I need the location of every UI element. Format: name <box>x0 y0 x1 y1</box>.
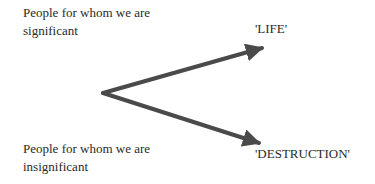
arrows-diagram <box>0 0 375 184</box>
arrow-to-life <box>103 48 262 93</box>
arrow-to-destruction <box>103 93 259 143</box>
